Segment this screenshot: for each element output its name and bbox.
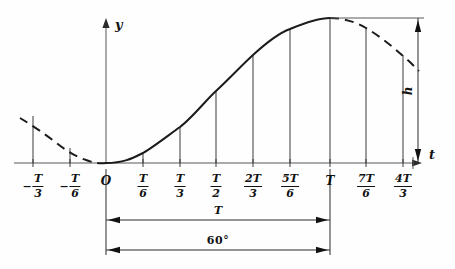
- diagram-canvas: [0, 0, 455, 269]
- displacement-curve-solid: [106, 18, 330, 163]
- tick-label-5T-6: 5T6: [281, 173, 299, 199]
- fraction: T6: [138, 173, 149, 199]
- tick-label-T-2: T2: [211, 173, 222, 199]
- displacement-curve-dashed-right: [330, 18, 419, 71]
- height-dimension-label: h: [402, 87, 414, 96]
- fraction: 4T3: [394, 173, 412, 199]
- h-dimension: [415, 18, 421, 163]
- fraction: 7T6: [357, 173, 375, 199]
- y-axis-label: y: [115, 18, 123, 31]
- minus-sign: −: [22, 181, 32, 192]
- fraction: 2T3: [244, 173, 262, 199]
- tick-label-neg-T-6: −T6: [59, 173, 80, 199]
- t-axis: [14, 157, 422, 169]
- y-axis: [102, 18, 109, 163]
- period-dimension-label: T: [214, 205, 222, 216]
- cam-angle-dimension: [106, 247, 330, 253]
- tick-label-4T-3: 4T3: [394, 173, 412, 199]
- tick-label-origin: O: [101, 175, 111, 187]
- tick-label-T: T: [326, 175, 335, 187]
- fraction: T3: [175, 173, 186, 199]
- period-dimension: [106, 217, 330, 223]
- tick-label-2T-3: 2T3: [244, 173, 262, 199]
- cam-displacement-diagram: y t h −T3 −T6 O T6 T3 T2 2T3 5T6 T 7T6 4…: [0, 0, 455, 269]
- tick-label-T-3: T3: [175, 173, 186, 199]
- fraction: T2: [211, 173, 222, 199]
- cam-angle-dimension-label: 60°: [207, 235, 229, 246]
- tick-label-7T-6: 7T6: [357, 173, 375, 199]
- t-axis-label: t: [429, 148, 435, 161]
- fraction: 5T6: [281, 173, 299, 199]
- fraction: T3: [33, 173, 44, 199]
- fraction: T6: [70, 173, 81, 199]
- tick-label-T-6: T6: [138, 173, 149, 199]
- tick-label-neg-T-3: −T3: [22, 173, 43, 199]
- minus-sign: −: [59, 181, 69, 192]
